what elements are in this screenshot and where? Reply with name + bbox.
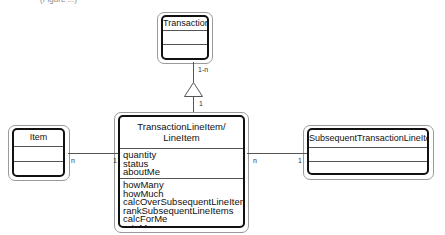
- multiplicity-label: 1: [298, 157, 302, 165]
- item-association-line: [68, 153, 118, 154]
- method: rateMe: [123, 224, 243, 228]
- multiplicity-label: 1-n: [198, 66, 208, 74]
- transaction-connector-upper: [193, 62, 194, 83]
- transaction-methods: [163, 45, 207, 58]
- transaction-class-name: Transaction: [163, 17, 207, 31]
- item-methods: [14, 162, 63, 175]
- multiplicity-label: n: [71, 157, 75, 165]
- multiplicity-label: n: [253, 157, 257, 165]
- subsequent-class-name: SubsequentTransactionLineItem: [309, 130, 427, 148]
- transaction-attributes: [163, 31, 207, 45]
- line-item-name-line2: LineItem: [120, 132, 243, 143]
- transaction-class[interactable]: Transaction: [161, 15, 209, 60]
- line-item-class-name: TransactionLineItem/ LineItem: [120, 117, 243, 149]
- multiplicity-label: 1: [199, 100, 203, 108]
- item-class-name: Item: [14, 130, 63, 147]
- subsequent-class[interactable]: SubsequentTransactionLineItem: [307, 128, 429, 175]
- subsequent-attributes: [309, 148, 427, 162]
- caption-fragment: (Figure ...): [40, 0, 77, 4]
- generalization-triangle-icon: [184, 82, 203, 97]
- multiplicity-label: 1: [113, 157, 117, 165]
- subsequent-association-line: [247, 153, 307, 154]
- item-attributes: [14, 147, 63, 162]
- line-item-name-line1: TransactionLineItem/: [120, 121, 243, 132]
- subsequent-methods: [309, 162, 427, 174]
- line-item-attributes: quantity status aboutMe: [120, 149, 243, 179]
- attribute: aboutMe: [123, 168, 243, 177]
- item-class[interactable]: Item: [12, 128, 65, 177]
- line-item-methods: howMany howMuch calcOverSubsequentLineIt…: [120, 179, 243, 227]
- line-item-class[interactable]: TransactionLineItem/ LineItem quantity s…: [118, 115, 245, 228]
